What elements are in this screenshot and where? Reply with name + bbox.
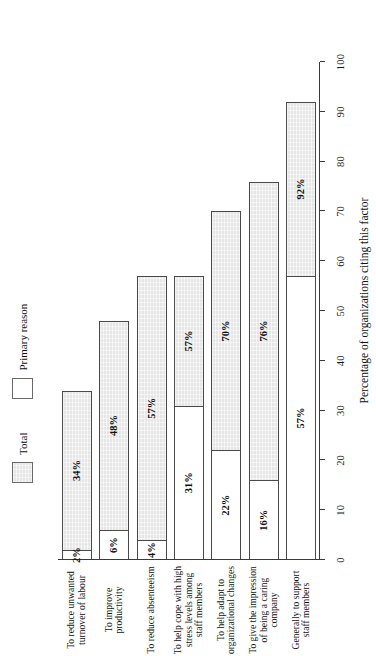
value-axis-tick [320, 61, 325, 62]
value-axis-tick-label: 70 [335, 191, 346, 231]
legend-swatch-primary-reason [12, 378, 33, 399]
legend-item-primary-reason: Primary reason [12, 304, 33, 399]
bar-value-label-primary-reason: 22% [211, 488, 241, 522]
bar-value-label-total: 57% [174, 324, 204, 358]
value-axis-tick-label: 50 [335, 291, 346, 331]
value-axis-tick [320, 161, 325, 162]
bar-value-label-total: 70% [211, 314, 241, 348]
category-label: To give the impression of being a caring… [245, 564, 282, 656]
bar-row: 34%2% [62, 62, 92, 560]
value-axis-tick-label: 100 [335, 42, 346, 82]
bar-value-label-total: 92% [286, 172, 316, 206]
bar-row: 57%31% [174, 62, 204, 560]
category-label: To improve productivity [95, 564, 132, 656]
value-axis-tick [320, 360, 325, 361]
bar-value-label-total: 57% [137, 391, 167, 425]
value-axis-tick [320, 111, 325, 112]
category-label: To reduce absenteeism [133, 564, 170, 656]
bar-value-label-total: 48% [99, 409, 129, 443]
category-label: Generally to support staff members [283, 564, 320, 656]
bar-value-label-primary-reason: 6% [99, 528, 129, 562]
bar-value-label-total: 34% [62, 453, 92, 487]
category-label: To help adapt to organizational changes [208, 564, 245, 656]
value-axis-tick-label: 30 [335, 391, 346, 431]
chart-legend: Total Primary reason [12, 304, 33, 483]
value-axis-tick-label: 20 [335, 440, 346, 480]
value-axis-tick-label: 0 [335, 540, 346, 580]
legend-item-total: Total [12, 433, 33, 483]
value-axis-tick-label: 10 [335, 490, 346, 530]
value-axis-tick [320, 509, 325, 510]
category-label: To help cope with high stress levels amo… [170, 564, 207, 656]
bar-value-label-primary-reason: 57% [286, 401, 316, 435]
value-axis-tick [320, 459, 325, 460]
category-axis-line [58, 559, 320, 560]
legend-label-primary-reason: Primary reason [17, 304, 29, 371]
value-axis-title: Percentage of organizations citing this … [358, 0, 370, 601]
legend-label-total: Total [17, 433, 29, 455]
value-axis-line [319, 62, 320, 560]
bar-value-label-total: 76% [249, 314, 279, 348]
value-axis-tick-label: 80 [335, 142, 346, 182]
value-axis-tick-label: 90 [335, 92, 346, 132]
category-label: To reduce unwanted turnover of labour [58, 564, 95, 656]
value-axis-tick [320, 410, 325, 411]
bar-row: 57%4% [137, 62, 167, 560]
value-axis-tick [320, 260, 325, 261]
value-axis-tick [320, 310, 325, 311]
bar-value-label-primary-reason: 31% [174, 466, 204, 500]
value-axis-tick-label: 60 [335, 241, 346, 281]
value-axis-tick-label: 40 [335, 341, 346, 381]
value-axis-tick [320, 559, 325, 560]
bar-row: 76%16% [249, 62, 279, 560]
bar-row: 92%57% [286, 62, 316, 560]
bar-row: 70%22% [211, 62, 241, 560]
bar-value-label-primary-reason: 4% [137, 533, 167, 567]
bar-value-label-primary-reason: 16% [249, 503, 279, 537]
bar-row: 48%6% [99, 62, 129, 560]
bar-value-label-primary-reason: 2% [62, 538, 92, 572]
legend-swatch-total [12, 462, 33, 483]
value-axis-tick [320, 210, 325, 211]
